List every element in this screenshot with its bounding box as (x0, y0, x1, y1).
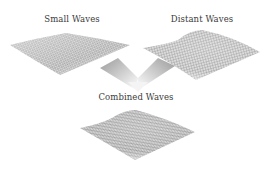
combined-waves-label: Combined Waves (98, 92, 173, 102)
combined-waves-mesh (80, 110, 195, 160)
merge-chevron-arrow-icon (100, 58, 175, 92)
wave-combination-diagram: Small Waves Distant Waves Combined Waves (0, 0, 271, 171)
distant-waves-label: Distant Waves (171, 14, 234, 24)
small-waves-label: Small Waves (44, 14, 99, 24)
